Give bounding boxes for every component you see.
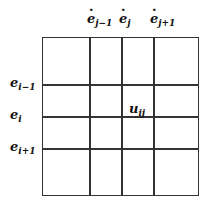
matrix-grid [42,37,199,196]
row-label-i-plus-1: ei+1 [10,140,36,156]
column-label-j: ej [119,12,131,28]
column-label-j-minus-1: ej−1 [87,12,112,28]
row-label-i-minus-1: ei−1 [10,76,36,92]
grid-row-divider [43,148,198,150]
row-label-i: ei [10,108,22,124]
grid-row-divider [43,116,198,118]
cell-label-u-ij: uij [129,102,145,118]
column-label-j-plus-1: ej+1 [150,12,175,28]
grid-row-divider [43,84,198,86]
